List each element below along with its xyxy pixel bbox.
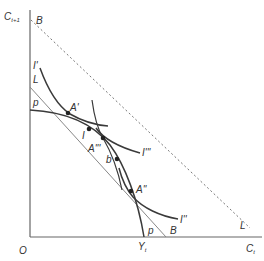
label-p-bottom: p — [147, 225, 154, 236]
diagram-canvas: Ct+1 B I' L p A' I A''' I''' b A'' I'' p… — [0, 0, 264, 261]
label-A-prime: A' — [69, 102, 80, 113]
label-L-left: L — [33, 74, 39, 85]
point-I — [87, 127, 92, 132]
label-I-double: I'' — [180, 214, 188, 225]
x-point-Yt: Yt — [138, 241, 147, 253]
label-I: I — [82, 130, 85, 141]
point-b — [115, 157, 120, 162]
indifference-curve-I-prime — [40, 68, 108, 126]
origin-label: O — [19, 245, 27, 256]
tangent-line-LB — [30, 87, 166, 237]
label-L-right: L — [240, 220, 246, 231]
label-I-triple: I''' — [142, 147, 152, 158]
label-B-top: B — [36, 15, 43, 26]
label-B-bottom: B — [170, 225, 177, 236]
label-A-triple: A''' — [87, 143, 101, 154]
label-A-double: A'' — [135, 184, 148, 195]
y-axis-label: Ct+1 — [4, 11, 20, 23]
label-b: b — [106, 154, 112, 165]
indifference-curve-I-double — [119, 168, 178, 219]
x-axis-label: Ct — [246, 243, 255, 255]
label-p-top: p — [32, 97, 39, 108]
indifference-curve-I-triple — [96, 128, 140, 153]
point-A-double — [129, 189, 134, 194]
point-A-triple — [101, 136, 106, 141]
label-I-prime: I' — [33, 60, 39, 71]
